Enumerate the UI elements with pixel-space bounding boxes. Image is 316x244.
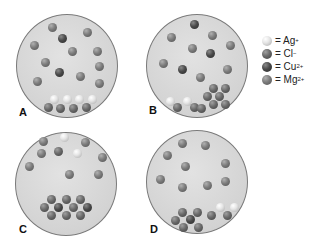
cl-ion (221, 100, 230, 109)
cl-ion (40, 203, 49, 212)
ag-ion (88, 95, 97, 104)
cl-ion-swatch-icon (262, 49, 272, 59)
cl-ion (215, 92, 224, 101)
cu-ion (55, 68, 64, 77)
cl-ion (178, 208, 187, 217)
mg-ion (226, 41, 235, 50)
mg-ion (188, 44, 197, 53)
mg-ion (68, 47, 77, 56)
cu-ion-swatch-icon (262, 62, 272, 72)
mg-ion (221, 159, 230, 168)
mg-ion (178, 183, 187, 192)
mg-ion (41, 58, 50, 67)
cl-ion (171, 216, 180, 225)
cl-ion (209, 84, 218, 93)
cl-ion (179, 223, 188, 232)
cu-ion (178, 65, 187, 74)
cl-ion (47, 211, 56, 220)
charge: 2+ (298, 76, 305, 82)
cl-ion (44, 103, 53, 112)
mg-ion (25, 162, 34, 171)
cl-ion (173, 103, 182, 112)
mg-ion (30, 41, 39, 50)
mg-ion (156, 175, 165, 184)
ag-ion-swatch-icon (262, 36, 272, 46)
cl-ion (47, 195, 56, 204)
cl-ion (56, 104, 65, 113)
ion-legend: = Ag+ = Cl− = Cu2+ = Mg2+ (262, 34, 304, 86)
cl-ion (193, 208, 202, 217)
cl-ion (194, 223, 203, 232)
cl-ion (76, 195, 85, 204)
ag-ion (60, 133, 69, 142)
cl-ion (207, 211, 216, 220)
panel-label: C (19, 223, 27, 235)
ag-ion (73, 149, 82, 158)
cl-ion (221, 84, 230, 93)
panel-label: B (149, 104, 157, 116)
mg-ion (203, 181, 212, 190)
legend-label: = Ag (275, 35, 295, 46)
charge: − (293, 50, 297, 56)
mg-ion (201, 141, 210, 150)
ag-ion (75, 95, 84, 104)
mg-ion (98, 153, 107, 162)
cl-ion (69, 203, 78, 212)
legend-item-cl: = Cl− (262, 47, 304, 60)
mg-ion (94, 170, 103, 179)
beaker-a (16, 14, 118, 118)
mg-ion (39, 137, 48, 146)
mg-ion (159, 59, 168, 68)
cl-ion (69, 104, 78, 113)
mg-ion (95, 79, 104, 88)
mg-ion (95, 62, 104, 71)
panel-label: D (150, 223, 158, 235)
legend-label: = Cl (275, 48, 293, 59)
mg-ion (196, 73, 205, 82)
mg-ion (33, 77, 42, 86)
cl-ion (197, 104, 206, 113)
mg-ion (76, 72, 85, 81)
ag-ion (216, 203, 225, 212)
mg-ion (93, 47, 102, 56)
legend-item-cu: = Cu2+ (262, 60, 304, 73)
cl-ion (82, 103, 91, 112)
cl-ion (209, 100, 218, 109)
charge: 2+ (296, 63, 303, 69)
mg-ion (178, 139, 187, 148)
mg-ion (208, 31, 217, 40)
mg-ion (163, 151, 172, 160)
ag-ion (63, 95, 72, 104)
mg-ion (167, 33, 176, 42)
mg-ion (48, 23, 57, 32)
mg-ion (221, 177, 230, 186)
cl-ion (223, 211, 232, 220)
panel-label: A (19, 106, 27, 118)
mg-ion-swatch-icon (262, 75, 272, 85)
legend-item-mg: = Mg2+ (262, 73, 304, 86)
mg-ion (83, 28, 92, 37)
cu-ion (190, 20, 199, 29)
beaker-c (15, 132, 117, 236)
legend-label: = Mg (275, 74, 298, 85)
cu-ion (58, 34, 67, 43)
ag-ion (50, 95, 59, 104)
beaker-b (146, 14, 248, 118)
legend-label: = Cu (275, 61, 296, 72)
charge: + (295, 37, 299, 43)
cu-ion (54, 203, 63, 212)
cl-ion (62, 195, 71, 204)
cu-ion (83, 203, 92, 212)
mg-ion (181, 162, 190, 171)
mg-ion (223, 65, 232, 74)
cu-ion (186, 215, 195, 224)
cl-ion (203, 92, 212, 101)
cl-ion (54, 147, 63, 156)
ag-ion (230, 203, 239, 212)
mg-ion (81, 138, 90, 147)
mg-ion (65, 170, 74, 179)
cu-ion (206, 49, 215, 58)
beaker-d (146, 130, 248, 234)
cl-ion (76, 211, 85, 220)
mg-ion (37, 149, 46, 158)
